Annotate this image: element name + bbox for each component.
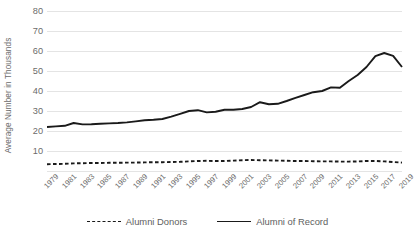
- x-axis-tick-label: 1981: [60, 172, 78, 190]
- series-layer: [47, 11, 402, 171]
- series-line-alumni-donors: [47, 160, 402, 164]
- chart-legend: Alumni Donors Alumni of Record: [0, 210, 415, 232]
- series-line-alumni-of-record: [47, 53, 402, 127]
- x-axis-tick-label: 1989: [131, 172, 149, 190]
- legend-item-alumni-donors: Alumni Donors: [87, 216, 187, 227]
- y-axis-tick-label: 10: [33, 146, 43, 156]
- x-axis-tick-labels: 1979198119831985198719891991199319951997…: [47, 172, 402, 206]
- y-axis-tick-label: 70: [33, 26, 43, 36]
- y-axis-title-text: Average Number in Thousands: [5, 37, 14, 153]
- legend-label: Alumni Donors: [126, 216, 187, 227]
- x-axis-tick-label: 2001: [237, 172, 255, 190]
- x-axis-tick-label: 1983: [78, 172, 96, 190]
- solid-line-swatch-icon: [217, 221, 251, 222]
- line-chart: Average Number in Thousands 102030405060…: [0, 0, 415, 243]
- plot-area: [47, 11, 402, 171]
- x-axis-tick-label: 2009: [308, 172, 326, 190]
- y-axis-tick-label: 40: [33, 86, 43, 96]
- x-axis-tick-label: 1999: [220, 172, 238, 190]
- x-axis-tick-label: 1993: [166, 172, 184, 190]
- x-axis-tick-label: 1995: [184, 172, 202, 190]
- x-axis-tick-label: 1991: [149, 172, 167, 190]
- x-axis-tick-label: 2015: [362, 172, 380, 190]
- legend-item-alumni-of-record: Alumni of Record: [217, 216, 328, 227]
- x-axis-tick-label: 1997: [202, 172, 220, 190]
- y-axis-tick-label: 20: [33, 126, 43, 136]
- y-axis-tick-label: 60: [33, 46, 43, 56]
- y-axis-tick-label: 80: [33, 6, 43, 16]
- y-axis-tick-label: 50: [33, 66, 43, 76]
- x-axis-tick-label: 2013: [344, 172, 362, 190]
- y-axis-title: Average Number in Thousands: [0, 0, 18, 190]
- legend-label: Alumni of Record: [256, 216, 328, 227]
- x-axis-tick-label: 1987: [113, 172, 131, 190]
- x-axis-tick-label: 2019: [397, 172, 415, 190]
- y-axis-tick-labels: 1020304050607080: [18, 0, 46, 190]
- x-axis-tick-label: 2017: [379, 172, 397, 190]
- dashed-line-swatch-icon: [87, 221, 121, 222]
- x-axis-tick-label: 2007: [291, 172, 309, 190]
- x-axis-tick-label: 2005: [273, 172, 291, 190]
- x-axis-tick-label: 1985: [95, 172, 113, 190]
- x-axis-tick-label: 2011: [326, 172, 344, 190]
- y-axis-tick-label: 30: [33, 106, 43, 116]
- x-axis-tick-label: 2003: [255, 172, 273, 190]
